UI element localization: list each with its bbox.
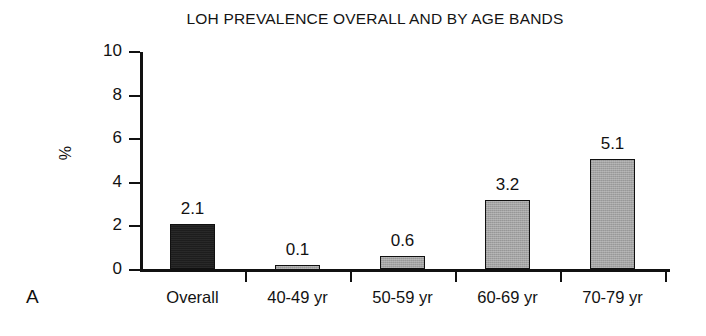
bar-value-70-79: 5.1 [578, 134, 648, 154]
bar-value-50-59: 0.6 [368, 231, 438, 251]
bar-overall [170, 224, 215, 270]
y-tick-5 [129, 51, 140, 53]
bar-value-40-49: 0.1 [263, 240, 333, 260]
bar-value-overall: 2.1 [158, 199, 228, 219]
y-tick-label-0: 0 [88, 259, 122, 279]
x-category-label-70-79: 70-79 yr [553, 288, 673, 307]
y-tick-4 [129, 95, 140, 97]
x-category-label-50-59: 50-59 yr [343, 288, 463, 307]
x-category-label-40-49: 40-49 yr [238, 288, 358, 307]
plot-area: 0 2 4 6 8 10 2.1 0.1 0.6 3.2 5.1 Overall… [0, 0, 706, 336]
x-tick-1 [350, 271, 352, 282]
y-tick-label-2: 4 [88, 172, 122, 192]
x-category-label-60-69: 60-69 yr [448, 288, 568, 307]
y-tick-1 [129, 225, 140, 227]
bar-40-49 [275, 265, 320, 270]
y-tick-3 [129, 138, 140, 140]
x-tick-0 [245, 271, 247, 282]
y-tick-label-3: 6 [88, 128, 122, 148]
figure-panel: LOH PREVALENCE OVERALL AND BY AGE BANDS … [0, 0, 706, 336]
y-axis-title: % [57, 133, 75, 173]
x-tick-3 [560, 271, 562, 282]
y-axis-line [140, 52, 143, 271]
y-tick-label-1: 2 [88, 215, 122, 235]
bar-60-69 [485, 200, 530, 270]
bar-value-60-69: 3.2 [473, 175, 543, 195]
y-tick-label-5: 10 [88, 41, 122, 61]
x-tick-4 [665, 271, 667, 282]
y-tick-label-4: 8 [88, 85, 122, 105]
bar-70-79 [590, 159, 635, 270]
y-tick-2 [129, 182, 140, 184]
bar-50-59 [380, 256, 425, 269]
panel-label: A [26, 286, 39, 308]
x-category-label-overall: Overall [133, 288, 253, 307]
y-tick-0 [129, 269, 140, 271]
x-tick-2 [455, 271, 457, 282]
